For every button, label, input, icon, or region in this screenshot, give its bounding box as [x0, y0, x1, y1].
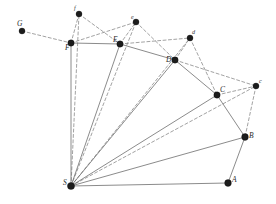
- edge-G-F: [22, 31, 71, 43]
- vertex-layer: [19, 11, 259, 190]
- geometry-figure: GfFeEdDCcBAS: [0, 0, 276, 204]
- edge-E-e: [120, 22, 136, 44]
- edge-F-e: [71, 22, 136, 43]
- vertex-label-d: d: [192, 28, 196, 35]
- vertex-label-G: G: [17, 19, 23, 28]
- vertex-label-c: c: [259, 77, 262, 84]
- edge-c-B: [245, 86, 256, 137]
- solid-edge-layer: [71, 43, 245, 186]
- edge-C-B: [217, 95, 245, 137]
- vertex-point-e: [133, 19, 139, 25]
- vertex-label-f: f: [74, 4, 77, 11]
- edge-S-c: [71, 86, 256, 186]
- vertex-point-f: [76, 11, 82, 17]
- vertex-point-S: [67, 182, 74, 189]
- vertex-label-B: B: [249, 131, 254, 140]
- vertex-point-B: [242, 134, 249, 141]
- vertex-point-d: [187, 35, 193, 41]
- edge-D-C: [175, 60, 217, 95]
- vertex-point-D: [172, 57, 178, 63]
- edge-D-c: [175, 60, 256, 86]
- edge-S-D: [71, 60, 175, 186]
- vertex-label-E: E: [112, 35, 118, 44]
- edge-S-f: [71, 14, 79, 186]
- vertex-label-C: C: [220, 85, 226, 94]
- vertex-label-e: e: [131, 13, 134, 20]
- vertex-point-G: [19, 28, 25, 34]
- vertex-point-E: [117, 41, 123, 47]
- vertex-point-A: [225, 180, 232, 187]
- dashed-edge-layer: [22, 14, 256, 186]
- vertex-label-F: F: [64, 43, 70, 52]
- vertex-label-D: D: [165, 55, 172, 64]
- edge-A-S: [71, 183, 228, 186]
- edge-d-C: [190, 38, 217, 95]
- figure-canvas: GfFeEdDCcBAS: [0, 0, 276, 204]
- vertex-label-S: S: [63, 178, 67, 187]
- edge-S-E: [71, 44, 120, 186]
- vertex-label-A: A: [231, 175, 237, 184]
- vertex-label-layer: GfFeEdDCcBAS: [17, 4, 262, 187]
- edge-S-e: [71, 22, 136, 186]
- edge-S-C: [71, 95, 217, 186]
- edge-S-B: [71, 137, 245, 186]
- edge-E-d: [120, 38, 190, 44]
